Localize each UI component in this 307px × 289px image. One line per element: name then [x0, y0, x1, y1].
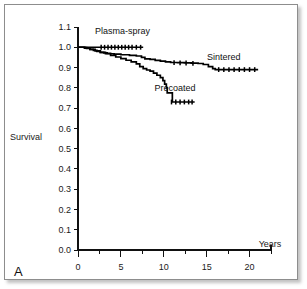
y-axis-title: Survival	[10, 132, 42, 142]
y-tick-label: 0.0	[58, 245, 71, 255]
x-tick-label: 10	[159, 262, 169, 272]
y-tick-label: 1.0	[58, 42, 71, 52]
panel-letter: A	[14, 264, 23, 279]
x-tick-label: 20	[245, 262, 255, 272]
figure-panel: 0.00.10.20.30.40.50.60.70.80.91.01.10510…	[0, 0, 307, 289]
y-tick-label: 0.9	[58, 63, 71, 73]
x-tick-label: 5	[118, 262, 123, 272]
y-tick-label: 0.8	[58, 83, 71, 93]
y-tick-label: 0.3	[58, 184, 71, 194]
y-tick-label: 0.2	[58, 205, 71, 215]
survival-chart: 0.00.10.20.30.40.50.60.70.80.91.01.10510…	[0, 0, 307, 289]
series-label-precoated: Precoated	[154, 83, 195, 93]
y-tick-label: 0.1	[58, 225, 71, 235]
x-axis-title: Years	[259, 239, 282, 249]
y-tick-label: 0.6	[58, 124, 71, 134]
series-annotations: Plasma-spraySinteredPrecoated	[95, 26, 240, 93]
series-label-sintered: Sintered	[207, 52, 241, 62]
y-tick-label: 0.4	[58, 164, 71, 174]
y-tick-label: 0.7	[58, 103, 71, 113]
x-tick-label: 15	[202, 262, 212, 272]
y-tick-label: 0.5	[58, 144, 71, 154]
x-tick-label: 0	[75, 262, 80, 272]
series-label-plasma-spray: Plasma-spray	[95, 26, 151, 36]
y-tick-label: 1.1	[58, 22, 71, 32]
axes	[74, 27, 271, 257]
